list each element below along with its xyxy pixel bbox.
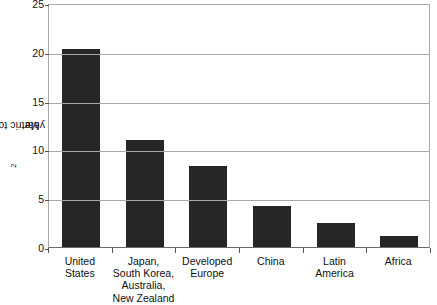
bar [380,236,418,247]
x-axis-label-line: South Korea, [112,267,176,279]
plot-area [48,4,430,248]
x-axis-tick-label: Japan,South Korea,Australia,New Zealand [112,255,176,304]
x-axis-label-line: Europe [175,267,239,279]
y-axis-tick-label: 0 [18,243,44,253]
x-axis-tick-mark [48,248,49,253]
x-axis-tick-mark [239,248,240,253]
gridline [49,151,429,152]
bar [62,49,100,247]
x-axis-tick-label: LatinAmerica [303,255,367,279]
gridline [49,103,429,104]
x-axis-tick-mark [112,248,113,253]
x-axis-label-line: New Zealand [112,292,176,304]
bar [126,140,164,247]
x-axis-label-line: America [303,267,367,279]
x-axis-label-line: Africa [366,255,430,267]
x-axis-tick-mark [175,248,176,253]
bar [189,166,227,247]
x-axis-tick-label: UnitedStates [48,255,112,279]
y-axis-tick-label: 15 [18,97,44,107]
x-axis-tick-label: China [239,255,303,267]
x-axis-label-line: States [48,267,112,279]
y-axis-tick-label: 10 [18,145,44,155]
bars-layer [49,5,429,247]
x-axis-tick-mark [303,248,304,253]
y-axis-tick-mark [45,54,49,55]
y-axis-tick-labels: 0510152025 [18,0,44,252]
x-axis-tick-mark [430,248,431,253]
x-axis-label-line: United [48,255,112,267]
gridline [49,200,429,201]
y-axis-tick-label: 20 [18,48,44,58]
gridline [49,54,429,55]
y-axis-title: Metric tons of CO2 per year [0,0,20,252]
x-axis-tick-label: Africa [366,255,430,267]
x-axis-label-line: Japan, [112,255,176,267]
y-axis-tick-mark [45,103,49,104]
x-axis-tick-labels: UnitedStatesJapan,South Korea,Australia,… [48,255,430,305]
bar [253,206,291,247]
x-axis-tick-mark [366,248,367,253]
y-axis-tick-label: 25 [18,0,44,9]
x-axis-label-line: Latin [303,255,367,267]
y-axis-tick-mark [45,151,49,152]
y-axis-tick-label: 5 [18,194,44,204]
y-axis-tick-mark [45,5,49,6]
x-axis-tick-label: DevelopedEurope [175,255,239,279]
x-axis-label-line: Developed [175,255,239,267]
bar [317,223,355,247]
y-axis-tick-mark [45,200,49,201]
x-axis-label-line: Australia, [112,279,176,291]
x-axis-label-line: China [239,255,303,267]
y-axis-title-subscript: 2 [9,163,18,167]
bar-chart: Metric tons of CO2 per year 0510152025 U… [0,0,437,305]
